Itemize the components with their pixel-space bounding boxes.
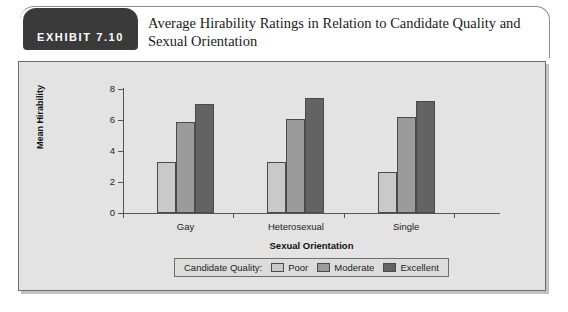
exhibit-card: EXHIBIT 7.10 Average Hirability Ratings … xyxy=(0,0,568,312)
legend-label: Moderate xyxy=(334,262,374,273)
legend-entry: Moderate xyxy=(317,262,374,273)
x-axis-line xyxy=(123,213,500,214)
legend-label: Poor xyxy=(288,262,308,273)
bar xyxy=(267,162,286,213)
bar xyxy=(305,98,324,213)
x-axis-tick xyxy=(233,213,234,218)
legend-entry: Excellent xyxy=(383,262,439,273)
exhibit-number-badge: EXHIBIT 7.10 xyxy=(23,8,138,50)
bar xyxy=(378,172,397,213)
legend-swatch xyxy=(271,263,284,272)
legend-label: Excellent xyxy=(400,262,439,273)
y-axis-tick-label: 0 xyxy=(91,207,115,218)
y-axis-title: Mean Hirability xyxy=(35,85,45,149)
legend-entry: Poor xyxy=(271,262,308,273)
legend-swatch xyxy=(383,263,396,272)
exhibit-title: Average Hirability Ratings in Relation t… xyxy=(148,14,543,50)
x-axis-category-label: Heterosexual xyxy=(268,221,324,232)
chart-legend: Candidate Quality: PoorModerateExcellent xyxy=(174,258,449,277)
chart-panel: Mean Hirability 02468 GayHeterosexualSin… xyxy=(18,61,546,291)
y-axis-tick-label: 4 xyxy=(91,145,115,156)
x-axis-tick xyxy=(123,213,124,218)
x-axis-category-label: Single xyxy=(393,221,419,232)
bar xyxy=(176,122,195,213)
bar xyxy=(157,162,176,213)
y-axis-tick-label: 2 xyxy=(91,176,115,187)
bar xyxy=(397,117,416,213)
y-axis-tick-label: 8 xyxy=(91,83,115,94)
bar xyxy=(286,119,305,213)
bar xyxy=(195,104,214,213)
exhibit-number-label: EXHIBIT 7.10 xyxy=(37,31,124,43)
x-axis-tick xyxy=(344,213,345,218)
legend-title: Candidate Quality: xyxy=(184,262,262,273)
legend-swatch xyxy=(317,263,330,272)
y-axis-tick-label: 6 xyxy=(91,114,115,125)
x-axis-tick xyxy=(454,213,455,218)
bar xyxy=(416,101,435,213)
plot-area xyxy=(124,89,499,213)
x-axis-title: Sexual Orientation xyxy=(124,240,499,251)
x-axis-category-label: Gay xyxy=(177,221,194,232)
